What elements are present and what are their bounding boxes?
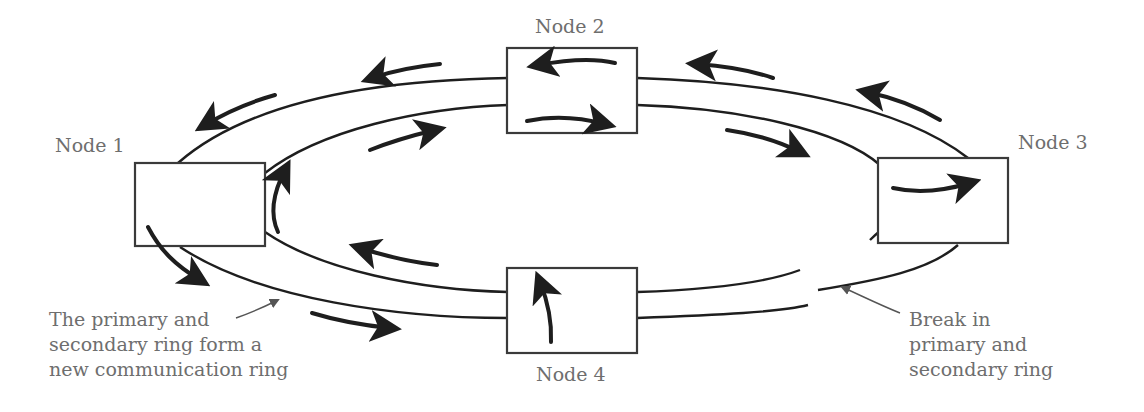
annotation-new-ring-line3: new communication ring xyxy=(49,357,288,382)
node4-label: Node 4 xyxy=(536,362,606,387)
annotation-break-line2: primary and xyxy=(909,332,1053,357)
annotation-break: Break in primary and secondary ring xyxy=(909,307,1053,382)
arrow-icon xyxy=(205,95,275,125)
node1-box xyxy=(135,163,265,246)
annotation-pointer-break xyxy=(842,287,900,313)
node4-box xyxy=(507,268,637,353)
annotation-break-line1: Break in xyxy=(909,307,1053,332)
arrow-icon xyxy=(312,313,390,328)
node1-label: Node 1 xyxy=(55,133,125,158)
arrow-icon xyxy=(273,170,285,232)
arrow-icon xyxy=(370,130,435,150)
arrow-icon xyxy=(372,64,440,78)
node2-label: Node 2 xyxy=(535,14,605,39)
arrow-icon xyxy=(867,92,940,120)
annotation-break-line3: secondary ring xyxy=(909,357,1053,382)
arrow-icon xyxy=(360,248,437,265)
arrow-icon xyxy=(697,64,773,78)
node3-box xyxy=(878,158,1008,243)
annotation-new-ring-line2: secondary ring form a xyxy=(49,332,288,357)
annotation-new-ring-line1: The primary and xyxy=(49,307,288,332)
annotation-new-ring: The primary and secondary ring form a ne… xyxy=(49,307,288,382)
arrow-icon xyxy=(727,130,800,152)
node3-label: Node 3 xyxy=(1018,130,1088,155)
